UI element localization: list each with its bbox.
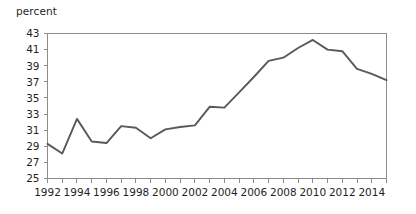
y-axis-tick-label: 25 bbox=[26, 172, 39, 184]
x-axis-tick-label: 2012 bbox=[329, 186, 356, 198]
line-chart: percent 25272931333537394143 19921994199… bbox=[0, 0, 416, 214]
data-series-line bbox=[48, 40, 387, 154]
x-axis-tick-label: 2010 bbox=[299, 186, 326, 198]
y-axis-tick-marks bbox=[44, 34, 48, 179]
y-axis-tick-label: 41 bbox=[26, 43, 39, 55]
x-axis-tick-labels: 1992199419961998200020022004200620082010… bbox=[34, 186, 385, 198]
x-axis-tick-label: 1998 bbox=[123, 186, 150, 198]
x-axis-tick-label: 2006 bbox=[240, 186, 267, 198]
y-axis-tick-label: 27 bbox=[26, 156, 39, 168]
y-axis-tick-label: 37 bbox=[26, 76, 39, 88]
y-axis-tick-label: 33 bbox=[26, 108, 39, 120]
plot-frame bbox=[48, 34, 387, 179]
x-axis-tick-label: 1996 bbox=[93, 186, 120, 198]
x-axis-tick-label: 1994 bbox=[64, 186, 91, 198]
x-axis-tick-label: 2008 bbox=[270, 186, 297, 198]
y-axis-tick-label: 35 bbox=[26, 92, 39, 104]
y-axis-tick-labels: 25272931333537394143 bbox=[26, 27, 39, 184]
y-axis-tick-label: 31 bbox=[26, 124, 39, 136]
plot-area: 25272931333537394143 1992199419961998200… bbox=[0, 0, 416, 214]
y-axis-tick-label: 43 bbox=[26, 27, 39, 39]
x-axis-tick-label: 1992 bbox=[34, 186, 61, 198]
y-axis-tick-label: 29 bbox=[26, 140, 39, 152]
x-axis-tick-label: 2004 bbox=[211, 186, 238, 198]
x-axis-tick-label: 2014 bbox=[358, 186, 385, 198]
x-axis-tick-label: 2002 bbox=[182, 186, 209, 198]
x-axis-tick-marks bbox=[48, 179, 387, 183]
y-axis-tick-label: 39 bbox=[26, 60, 39, 72]
x-axis-tick-label: 2000 bbox=[152, 186, 179, 198]
